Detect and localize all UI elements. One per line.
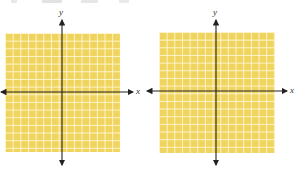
left-y-axis-label: y <box>59 8 63 17</box>
axes-layer <box>0 0 298 171</box>
right-y-axis-label: y <box>213 8 217 17</box>
right-x-axis-label: x <box>290 86 294 95</box>
left-x-axis-label: x <box>136 87 140 96</box>
